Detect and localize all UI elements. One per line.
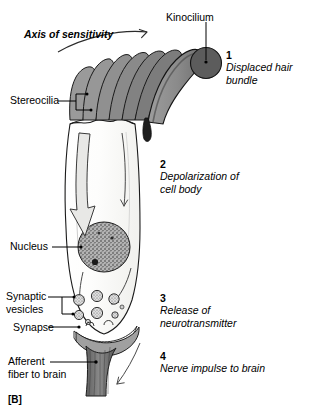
step-2-number: 2 <box>160 158 166 170</box>
stereocilia-label: Stereocilia <box>10 94 59 107</box>
step-1-text: Displaced hair bundle <box>226 61 313 86</box>
kinocilium-label: Kinocilium <box>166 11 214 24</box>
nucleus-label: Nucleus <box>10 240 48 253</box>
afferent-fiber-label: Afferent fiber to brain <box>8 355 66 380</box>
step-2-text: Depolarization of cell body <box>160 170 239 195</box>
hair-cell-diagram: Axis of sensitivity Kinocilium Stereocil… <box>0 0 313 414</box>
synaptic-vesicles-label: Synaptic vesicles <box>6 290 46 315</box>
axis-of-sensitivity-label: Axis of sensitivity <box>24 28 113 41</box>
step-3-number: 3 <box>160 292 166 304</box>
synapse-label: Synapse <box>13 321 54 334</box>
leader-vesicles <box>48 297 72 314</box>
step-4-text: Nerve impulse to brain <box>160 362 265 375</box>
afferent-fiber <box>86 346 116 396</box>
panel-tag: [B] <box>8 394 22 405</box>
step-3-text: Release of neurotransmitter <box>160 304 236 329</box>
step-4-number: 4 <box>160 350 166 362</box>
step-1-number: 1 <box>226 49 232 61</box>
